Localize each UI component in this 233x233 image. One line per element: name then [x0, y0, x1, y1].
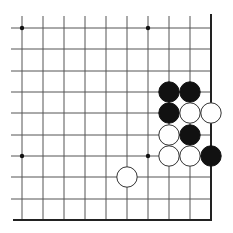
go-board — [0, 0, 233, 233]
white-stone — [159, 146, 179, 166]
black-stone — [180, 125, 200, 145]
star-point — [146, 26, 150, 30]
black-stone — [201, 146, 221, 166]
star-point — [20, 26, 24, 30]
black-stone — [159, 103, 179, 123]
star-point — [146, 154, 150, 158]
star-point — [20, 154, 24, 158]
white-stone — [117, 167, 137, 187]
black-stone — [159, 82, 179, 102]
white-stone — [180, 103, 200, 123]
white-stone — [180, 146, 200, 166]
white-stone — [201, 103, 221, 123]
black-stone — [180, 82, 200, 102]
white-stone — [159, 125, 179, 145]
